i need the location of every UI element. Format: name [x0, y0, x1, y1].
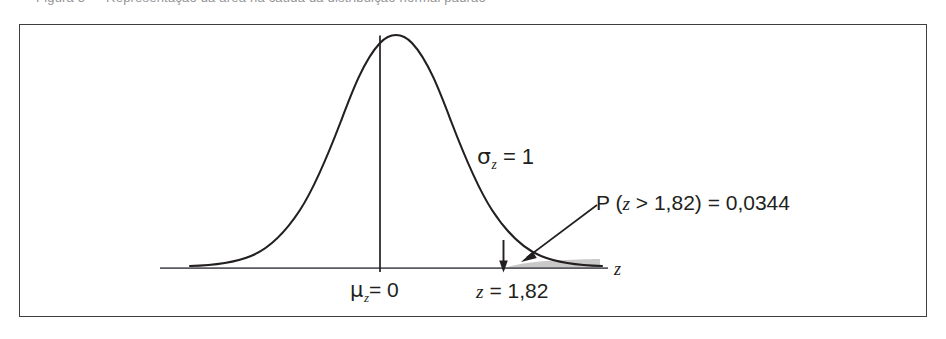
sigma-label: σz = 1 — [477, 146, 534, 171]
probability-variable: z — [622, 193, 630, 214]
sigma-equals: = 1 — [503, 144, 534, 169]
normal-curve — [190, 35, 602, 266]
z-critical-variable: z — [476, 281, 484, 302]
sigma-symbol: σ — [477, 144, 491, 169]
x-axis-label: z — [614, 260, 621, 278]
probability-label: P (z > 1,82) = 0,0344 — [596, 192, 790, 213]
caption-sliver: Figura 5 — Representação da área na caud… — [0, 0, 946, 12]
caption-sliver-text: Figura 5 — Representação da área na caud… — [36, 0, 486, 5]
z-critical-arrow-head — [499, 261, 508, 273]
sigma-subscript: z — [491, 157, 497, 172]
mu-equals: = 0 — [369, 278, 399, 301]
probability-leader-line — [527, 205, 597, 258]
z-critical-label: z = 1,82 — [476, 280, 548, 301]
probability-condition: > 1,82) = 0,0344 — [636, 191, 790, 214]
probability-prefix: P ( — [596, 191, 622, 214]
figure-page: Figura 5 — Representação da área na caud… — [0, 0, 946, 339]
normal-distribution-plot — [19, 24, 927, 317]
mu-symbol: μ — [350, 278, 363, 302]
mean-label: μz= 0 — [350, 279, 399, 304]
z-critical-equals: = 1,82 — [489, 279, 548, 302]
